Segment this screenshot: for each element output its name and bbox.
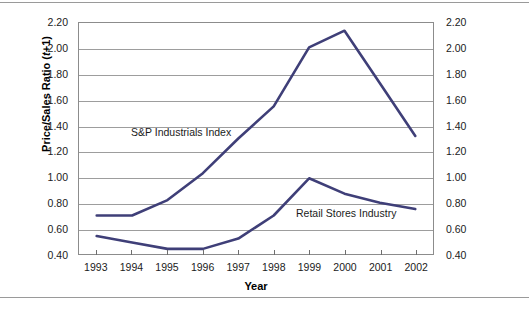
y-axis-tick-label-right: 2.20 [446,17,466,28]
series-label-sp-industrials: S&P Industrials Index [131,127,231,138]
x-axis-tickmark [345,250,346,255]
x-axis-tickmark [416,250,417,255]
y-axis-tick-label-right: 1.20 [446,146,466,157]
y-axis-tick-label-left: 1.60 [48,95,68,106]
y-axis-tick-label-left: 1.40 [48,121,68,132]
y-axis-tick-label-right: 1.00 [446,172,466,183]
bottom-divider-rule [0,297,529,298]
y-axis-tick-label-left: 0.60 [48,224,68,235]
y-axis-tick-label-left: 0.40 [48,250,68,261]
plot-area [78,22,434,255]
y-axis-tick-label-left: 1.00 [48,172,68,183]
x-axis-tickmark [131,250,132,255]
y-axis-tick-label-left: 1.80 [48,69,68,80]
y-axis-tick-label-right: 1.60 [446,95,466,106]
top-divider-rule [0,2,529,3]
y-axis-tick-label-left: 2.20 [48,17,68,28]
y-axis-tick-label-left: 0.80 [48,198,68,209]
y-axis-tick-label-right: 0.60 [446,224,466,235]
x-axis-tick-label: 2002 [394,262,438,273]
series-lines [79,23,433,254]
x-axis-tickmark [167,250,168,255]
x-axis-tickmark [309,250,310,255]
chart-figure: Price/Sales Ratio (t+1) 0.400.600.801.00… [0,0,529,313]
y-axis-tick-label-left: 1.20 [48,146,68,157]
x-axis-tickmark [238,250,239,255]
y-axis-tick-label-right: 0.80 [446,198,466,209]
series-label-retail-stores: Retail Stores Industry [296,208,396,219]
x-axis-tickmark [381,250,382,255]
y-axis-tick-label-right: 1.40 [446,121,466,132]
x-axis-tickmark [274,250,275,255]
series-line [97,31,416,216]
x-axis-tickmark [96,250,97,255]
y-axis-tick-label-right: 1.80 [446,69,466,80]
y-axis-tick-label-right: 0.40 [446,250,466,261]
y-axis-tick-label-left: 2.00 [48,43,68,54]
x-axis-title: Year [78,280,434,292]
y-axis-tick-label-right: 2.00 [446,43,466,54]
x-axis-tickmark [203,250,204,255]
